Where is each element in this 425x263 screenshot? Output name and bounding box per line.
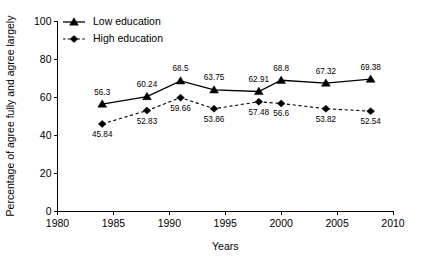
y-axis-tick-label: 40 [40,129,52,141]
y-axis-tick-label: 20 [40,167,52,179]
y-axis-tick-label: 80 [40,53,52,65]
legend-label-2: High education [93,32,163,44]
x-axis-tick-label: 2000 [269,217,293,229]
data-point-label: 60.24 [137,80,158,89]
chart-canvas: 020406080100 198019851990199520002005201… [0,0,425,263]
x-axis-tick-label: 1990 [158,217,182,229]
x-axis-tick-label: 2005 [325,217,349,229]
data-point-label: 69.38 [360,63,381,72]
data-point-label: 52.83 [137,117,158,126]
x-axis-title: Years [212,240,238,252]
data-point-label: 52.54 [360,117,381,126]
legend-label-1: Low education [93,15,161,27]
y-axis-title: Percentage of agree fully and agree larg… [4,15,16,217]
y-axis-tick-label: 100 [34,15,52,27]
data-point-label: 56.6 [273,109,289,118]
data-point-label: 59.66 [170,104,191,113]
data-point-label: 56.3 [94,88,110,97]
data-point-label: 68.5 [173,64,189,73]
data-point-label: 45.84 [92,130,113,139]
y-axis-tick-label: 0 [46,205,52,217]
data-point-label: 67.32 [316,67,337,76]
x-axis-tick-label: 1995 [214,217,238,229]
line-chart: 020406080100 198019851990199520002005201… [0,0,425,263]
x-axis-tick-label: 1980 [46,217,70,229]
data-point-label: 63.75 [204,73,225,82]
data-point-label: 53.86 [204,115,225,124]
x-axis-tick-label: 1985 [102,217,126,229]
data-point-label: 68.8 [273,64,289,73]
x-axis-tick-label: 2010 [381,217,405,229]
data-point-label: 53.82 [316,115,337,124]
data-point-label: 62.91 [249,75,270,84]
y-axis-tick-label: 60 [40,91,52,103]
data-point-label: 57.48 [249,108,270,117]
